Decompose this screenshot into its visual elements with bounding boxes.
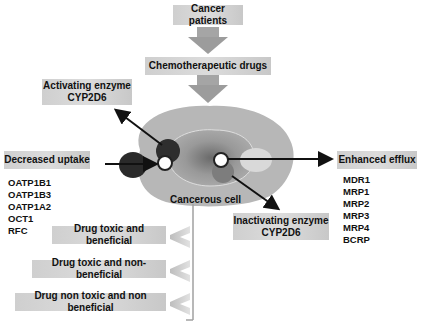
cancer-patients-label: Cancer patients xyxy=(173,3,243,27)
activating-enzyme-label: Activating enzyme xyxy=(43,80,131,92)
transporter-item: MRP1 xyxy=(343,186,370,198)
outcome-label: Drug non toxic and non beneficial xyxy=(15,290,166,314)
transporter-item: RFC xyxy=(8,225,51,237)
enhanced-efflux-label: Enhanced efflux xyxy=(338,154,415,166)
chemotherapeutic-drugs-label: Chemotherapeutic drugs xyxy=(149,60,267,72)
decreased-uptake-box: Decreased uptake xyxy=(4,151,90,169)
transporter-item: MRP3 xyxy=(343,210,370,222)
efflux-pore xyxy=(214,153,228,167)
inactivating-enzyme-box: Inactivating enzyme CYP2D6 xyxy=(233,213,329,240)
inactivating-enzyme-label: Inactivating enzyme xyxy=(233,215,328,227)
transporter-item: MDR1 xyxy=(343,174,370,186)
cancerous-cell-label: Cancerous cell xyxy=(170,194,241,205)
efflux-transporter-list: MDR1 MRP1 MRP2 MRP3 MRP4 BCRP xyxy=(343,174,370,246)
down-arrow-2 xyxy=(188,75,228,103)
down-arrow-1 xyxy=(188,27,228,54)
enhanced-efflux-box: Enhanced efflux xyxy=(337,151,417,169)
outcome-box-1: Drug toxic and beneficial xyxy=(52,226,166,244)
transporter-item: OATP1B1 xyxy=(8,177,51,189)
chevron-icon xyxy=(170,226,190,248)
transporter-item: MRP4 xyxy=(343,222,370,234)
uptake-transporter-list: OATP1B1 OATP1B3 OATP1A2 OCT1 RFC xyxy=(8,177,51,237)
uptake-pore xyxy=(158,156,172,170)
outcome-label: Drug toxic and non-beneficial xyxy=(32,257,166,281)
transporter-item: OCT1 xyxy=(8,213,51,225)
outcome-box-3: Drug non toxic and non beneficial xyxy=(15,293,166,311)
chevron-icon xyxy=(170,293,190,315)
cancer-patients-box: Cancer patients xyxy=(173,5,243,25)
chevron-icon xyxy=(170,260,190,282)
transporter-item: BCRP xyxy=(343,234,370,246)
transporter-item: OATP1B3 xyxy=(8,189,51,201)
chemotherapeutic-drugs-box: Chemotherapeutic drugs xyxy=(145,57,271,75)
inactivating-enzyme-name: CYP2D6 xyxy=(262,227,301,239)
transporter-item: MRP2 xyxy=(343,198,370,210)
activating-enzyme-name: CYP2D6 xyxy=(68,92,107,104)
decreased-uptake-label: Decreased uptake xyxy=(4,154,90,166)
outcome-label: Drug toxic and beneficial xyxy=(52,223,166,247)
activating-enzyme-box: Activating enzyme CYP2D6 xyxy=(42,79,132,105)
transporter-item: OATP1A2 xyxy=(8,201,51,213)
outcome-box-2: Drug toxic and non-beneficial xyxy=(32,260,166,278)
